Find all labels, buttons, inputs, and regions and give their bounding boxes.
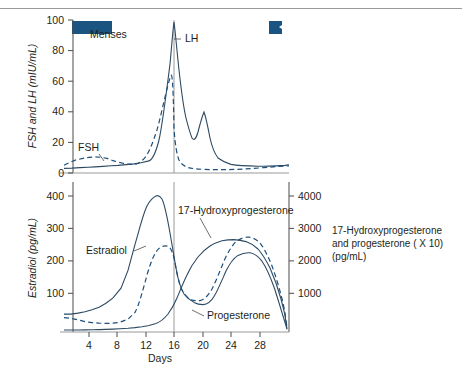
right-axis-label-line2: and progesterone ( X 10) xyxy=(332,238,443,249)
bottom-ytick-400: 400 xyxy=(46,190,64,202)
estradiol-label: Estradiol xyxy=(86,244,127,256)
bottom-ytick-200: 200 xyxy=(46,254,64,266)
right-axis-label-line1: 17-Hydroxyprogesterone xyxy=(332,225,442,236)
top-y-ticks xyxy=(68,20,73,173)
bottom-y2tick-2000: 2000 xyxy=(298,254,322,266)
top-ytick-100: 100 xyxy=(46,14,64,26)
bottom-y2tick-1000: 1000 xyxy=(298,287,322,299)
top-ytick-60: 60 xyxy=(52,75,64,87)
xtick-20: 20 xyxy=(197,339,209,351)
figure-root: 0 20 40 60 80 100 FSH and LH (mIU/mL) Me… xyxy=(0,0,462,374)
bottom-ytick-100: 100 xyxy=(46,287,64,299)
chart-canvas: 0 20 40 60 80 100 FSH and LH (mIU/mL) Me… xyxy=(0,0,462,374)
xtick-28: 28 xyxy=(254,339,266,351)
fsh-label: FSH xyxy=(78,141,99,153)
xtick-24: 24 xyxy=(225,339,237,351)
top-ytick-0: 0 xyxy=(58,167,64,179)
xtick-4: 4 xyxy=(86,339,92,351)
progesterone-label: Progesterone xyxy=(207,309,270,321)
bottom-y2tick-4000: 4000 xyxy=(298,190,322,202)
bottom-panel: 100 200 300 400 1000 2000 3000 4000 xyxy=(26,182,443,364)
menses-label: Menses xyxy=(90,28,127,40)
menses-bar-end xyxy=(269,21,282,34)
right-axis-label-line3: (pg/mL) xyxy=(332,251,366,262)
chart-svg: 0 20 40 60 80 100 FSH and LH (mIU/mL) Me… xyxy=(0,0,462,374)
top-ytick-80: 80 xyxy=(52,44,64,56)
bottom-y2tick-3000: 3000 xyxy=(298,222,322,234)
lh-label: LH xyxy=(185,32,198,44)
bottom-y-axis-label: Estradiol (pg/mL) xyxy=(26,218,38,298)
progesterone-leader-line xyxy=(192,310,204,316)
xtick-8: 8 xyxy=(114,339,120,351)
figure-caption-cropped xyxy=(0,366,462,374)
top-ytick-20: 20 xyxy=(52,136,64,148)
top-ytick-40: 40 xyxy=(52,105,64,117)
top-y-axis-label: FSH and LH (mIU/mL) xyxy=(26,44,38,148)
bottom-x-ticks xyxy=(89,332,260,337)
top-panel: 0 20 40 60 80 100 FSH and LH (mIU/mL) Me… xyxy=(26,14,289,179)
x-axis-label: Days xyxy=(148,352,172,364)
bottom-y-ticks xyxy=(68,196,73,293)
xtick-16: 16 xyxy=(168,339,180,351)
hydroxyprogesterone-leader-line xyxy=(200,218,211,238)
bottom-ytick-300: 300 xyxy=(46,222,64,234)
series-fsh-curve xyxy=(64,75,289,170)
xtick-12: 12 xyxy=(140,339,152,351)
hydroxyprogesterone-label: 17-Hydroxyprogesterone xyxy=(178,204,294,216)
estradiol-leader-line xyxy=(134,246,146,251)
